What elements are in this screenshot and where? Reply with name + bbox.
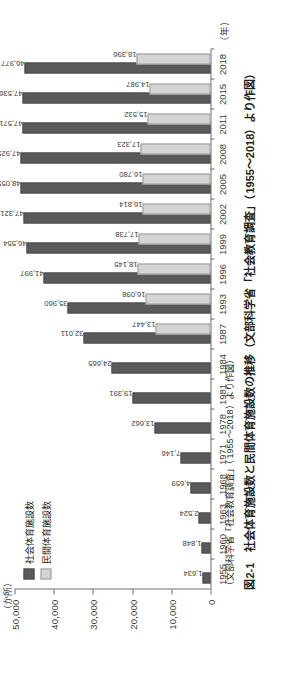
- x-axis-label: 2011: [216, 108, 227, 140]
- x-axis-label: 1987: [216, 318, 227, 350]
- bar-value-label: 13,662: [131, 418, 154, 427]
- figure-title: 図2-1 社会体育施設数と民間体育施設数の推移（文部科学省「社会教育調査」（19…: [240, 67, 256, 589]
- bar-value-label: 14,987: [126, 79, 149, 88]
- bar-value-label: 24,665: [88, 358, 111, 367]
- bar-value-label: 17,738: [115, 229, 138, 238]
- x-axis-tick: [210, 318, 214, 319]
- bar-private-1987: [155, 323, 210, 334]
- bar-value-label: 15,532: [124, 109, 147, 118]
- bar-value-label: 1,848: [182, 538, 201, 547]
- y-axis-tick: [171, 589, 172, 594]
- x-axis-unit: （年）: [216, 15, 230, 45]
- bar-private-2018: [136, 53, 210, 64]
- x-axis-tick: [210, 498, 214, 499]
- x-axis-tick: [210, 438, 214, 439]
- bar-value-label: 7,146: [161, 448, 180, 457]
- bar-social-1971: [180, 452, 210, 463]
- x-axis-tick: [210, 168, 214, 169]
- x-axis-tick: [210, 48, 214, 49]
- y-axis-label: 40,000: [48, 599, 59, 651]
- y-axis-tick: [132, 589, 133, 594]
- bar-social-1978: [154, 422, 210, 433]
- x-axis-tick: [210, 78, 214, 79]
- bar-social-1981: [132, 392, 210, 403]
- x-axis-tick: [210, 348, 214, 349]
- bar-value-label: 18,396: [113, 49, 136, 58]
- bar-private-2002: [142, 203, 210, 214]
- figure-source: （文部科学省「社会教育調査」（1955～2018）より作図）: [222, 355, 235, 589]
- bar-private-1996: [137, 263, 210, 274]
- bar-private-2008: [140, 143, 210, 154]
- bar-value-label: 41,997: [20, 268, 43, 277]
- bar-social-1960: [201, 542, 210, 553]
- x-axis-tick: [210, 228, 214, 229]
- y-axis-tick: [92, 589, 93, 594]
- figure-frame: （か所） 社会体育施設数 民間体育施設数 010,00020,00030,000…: [0, 0, 283, 675]
- bar-value-label: 16,814: [119, 199, 142, 208]
- bar-value-label: 16,098: [122, 289, 145, 298]
- bar-value-label: 35,960: [44, 298, 67, 307]
- bar-private-2011: [147, 113, 210, 124]
- x-axis-tick: [210, 258, 214, 259]
- bar-social-1955: [202, 572, 210, 583]
- x-axis-tick: [210, 528, 214, 529]
- bar-value-label: 4,659: [171, 478, 190, 487]
- y-axis-tick: [53, 589, 54, 594]
- bar-value-label: 47,536: [0, 88, 22, 97]
- x-axis-tick: [210, 468, 214, 469]
- bar-value-label: 1,634: [183, 568, 202, 577]
- bar-value-label: 18,145: [114, 259, 137, 268]
- y-axis-label: 50,000: [9, 599, 20, 651]
- x-axis-tick: [210, 138, 214, 139]
- x-axis-label: 1993: [216, 288, 227, 320]
- bar-social-1963: [198, 512, 210, 523]
- x-axis-label: 2002: [216, 198, 227, 230]
- x-axis-tick: [210, 408, 214, 409]
- x-axis-tick: [210, 108, 214, 109]
- bar-private-2015: [149, 83, 210, 94]
- y-axis-label: 10,000: [166, 599, 177, 651]
- y-axis-tick: [14, 589, 15, 594]
- bar-value-label: 16,780: [119, 169, 142, 178]
- x-axis-tick: [210, 288, 214, 289]
- y-axis-label: 0: [205, 599, 216, 651]
- x-axis-label: 2005: [216, 168, 227, 200]
- y-axis-label: 20,000: [127, 599, 138, 651]
- bar-private-2005: [142, 173, 210, 184]
- plot-area: 010,00020,00030,00040,00050,00019551,634…: [14, 49, 210, 589]
- bar-private-1999: [138, 233, 210, 244]
- bar-value-label: 32,011: [60, 328, 83, 337]
- x-axis-label: 2018: [216, 48, 227, 80]
- x-axis-label: 1996: [216, 258, 227, 290]
- x-axis-label: 1999: [216, 228, 227, 260]
- bar-value-label: 47,321: [0, 208, 23, 217]
- bar-value-label: 2,524: [179, 508, 198, 517]
- x-axis-label: 2008: [216, 138, 227, 170]
- bar-value-label: 47,925: [0, 148, 20, 157]
- bar-value-label: 46,554: [2, 238, 25, 247]
- chart-landscape-canvas: （か所） 社会体育施設数 民間体育施設数 010,00020,00030,000…: [0, 0, 283, 675]
- bar-value-label: 46,977: [1, 58, 24, 67]
- bar-value-label: 17,323: [117, 139, 140, 148]
- bar-value-label: 13,447: [132, 319, 155, 328]
- x-axis-tick: [210, 558, 214, 559]
- bar-social-1968: [190, 482, 210, 493]
- bar-value-label: 47,571: [0, 118, 22, 127]
- bar-value-label: 19,391: [109, 388, 132, 397]
- x-axis-tick: [210, 378, 214, 379]
- bar-social-1984: [111, 362, 210, 373]
- bar-private-1993: [145, 293, 210, 304]
- y-axis-label: 30,000: [87, 599, 98, 651]
- y-axis-tick: [210, 589, 211, 594]
- x-axis-label: 2015: [216, 78, 227, 110]
- x-axis-tick: [210, 198, 214, 199]
- bar-value-label: 48,055: [0, 178, 20, 187]
